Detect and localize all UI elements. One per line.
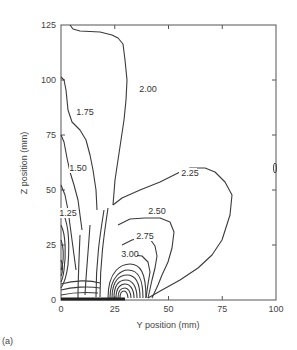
panel-label: (a) — [2, 336, 13, 346]
svg-text:1.50: 1.50 — [69, 163, 87, 173]
svg-text:25: 25 — [110, 304, 120, 314]
svg-text:3.00: 3.00 — [121, 249, 139, 259]
svg-text:2.50: 2.50 — [148, 206, 166, 216]
svg-text:100: 100 — [41, 75, 56, 85]
svg-text:125: 125 — [41, 20, 56, 30]
y-ticks — [61, 80, 276, 245]
svg-text:25: 25 — [46, 240, 56, 250]
svg-text:75: 75 — [46, 130, 56, 140]
svg-text:2.00: 2.00 — [139, 84, 157, 94]
svg-text:50: 50 — [46, 185, 56, 195]
contour-labels: 1.25 1.50 1.75 2.00 2.25 2.50 2.75 3.00 — [58, 84, 199, 259]
svg-text:2.25: 2.25 — [181, 168, 199, 178]
y-tick-labels: 0 25 50 75 100 125 — [41, 20, 56, 305]
svg-text:50: 50 — [163, 304, 173, 314]
svg-text:75: 75 — [217, 304, 227, 314]
contour-lines — [61, 25, 277, 299]
contour-2-25 — [113, 168, 232, 298]
contour-1-75 — [61, 77, 97, 210]
y-axis-label: Z position (mm) — [19, 132, 29, 195]
contour-plot: 0 25 50 75 100 0 25 50 75 100 125 Y posi… — [0, 0, 297, 350]
svg-text:0: 0 — [51, 295, 56, 305]
svg-text:100: 100 — [268, 304, 283, 314]
x-axis-label: Y position (mm) — [137, 320, 200, 330]
x-tick-labels: 0 25 50 75 100 — [58, 304, 283, 314]
svg-text:2.75: 2.75 — [136, 231, 154, 241]
svg-text:0: 0 — [58, 304, 63, 314]
svg-text:1.75: 1.75 — [76, 107, 94, 117]
svg-text:1.25: 1.25 — [59, 208, 77, 218]
